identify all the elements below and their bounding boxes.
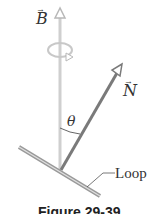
physics-diagram: → B → N θ Loop Figure 29-39 xyxy=(0,0,160,214)
loop-leader-line xyxy=(87,173,115,187)
n-vector-label: N xyxy=(123,83,137,99)
loop-label: Loop xyxy=(115,165,147,182)
theta-angle-label: θ xyxy=(67,114,75,128)
figure-caption: Figure 29-39 xyxy=(38,204,120,214)
b-vector-label: B xyxy=(36,11,48,27)
b-field-arrow xyxy=(55,8,65,170)
